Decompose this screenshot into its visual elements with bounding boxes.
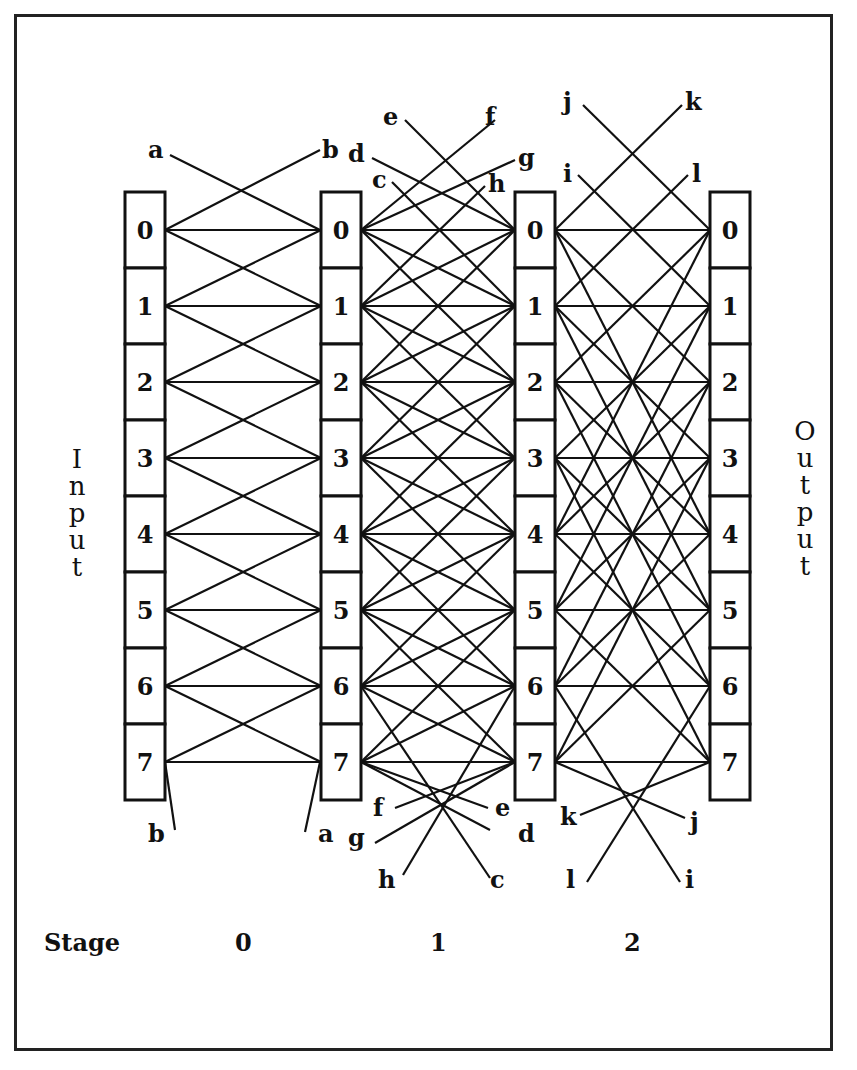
wrap-label-g: g xyxy=(348,823,365,852)
column-3-cell-label: 1 xyxy=(722,292,739,321)
wrap-label-h: h xyxy=(488,169,505,198)
column-2-cell-label: 0 xyxy=(527,216,544,245)
column-1-cell-label: 4 xyxy=(333,520,350,549)
wrap-label-e: e xyxy=(383,102,398,131)
wrap-line-k xyxy=(555,105,682,230)
stage-0-label: 0 xyxy=(235,928,252,957)
column-1-cell-label: 3 xyxy=(333,444,350,473)
column-3-cell-label: 0 xyxy=(722,216,739,245)
column-1-cell-label: 6 xyxy=(333,672,350,701)
column-2-cell-label: 6 xyxy=(527,672,544,701)
column-3-cell-label: 7 xyxy=(722,748,739,777)
wrap-line-c xyxy=(361,686,490,878)
wrap-line-j xyxy=(583,105,710,230)
column-0-cell-label: 3 xyxy=(137,444,154,473)
column-2-cell-label: 3 xyxy=(527,444,544,473)
output-label: Output xyxy=(790,418,820,580)
column-1-cell-label: 0 xyxy=(333,216,350,245)
wrap-label-f: f xyxy=(373,793,385,822)
column-0-cell-label: 2 xyxy=(137,368,154,397)
wrap-label-c: c xyxy=(490,865,505,894)
wrap-label-a: a xyxy=(318,819,334,848)
column-1-cell-label: 5 xyxy=(333,596,350,625)
stage-title: Stage xyxy=(44,928,120,957)
wrap-label-l: l xyxy=(692,159,701,188)
wrap-label-a: a xyxy=(148,135,164,164)
wrap-label-g: g xyxy=(518,143,535,172)
wrap-label-e: e xyxy=(495,793,510,822)
column-1-cell-label: 2 xyxy=(333,368,350,397)
column-3-cell-label: 2 xyxy=(722,368,739,397)
column-2-cell-label: 7 xyxy=(527,748,544,777)
stage-1-label: 1 xyxy=(430,928,447,957)
stage-2-label: 2 xyxy=(624,928,641,957)
column-2-cell-label: 5 xyxy=(527,596,544,625)
column-1-cell-label: 1 xyxy=(333,292,350,321)
wrap-line-a xyxy=(170,155,320,230)
column-0-cell-label: 1 xyxy=(137,292,154,321)
wrap-line-h xyxy=(361,186,485,306)
wrap-label-c: c xyxy=(372,165,387,194)
wrap-label-i: i xyxy=(563,159,572,188)
wrap-line-l xyxy=(555,175,688,306)
column-2-cell-label: 4 xyxy=(527,520,544,549)
column-3-cell-label: 4 xyxy=(722,520,739,549)
wrap-label-d: d xyxy=(348,139,365,168)
wrap-label-j: j xyxy=(688,807,699,836)
column-0-cell-label: 5 xyxy=(137,596,154,625)
wrap-label-k: k xyxy=(560,802,578,831)
column-2-cell-label: 2 xyxy=(527,368,544,397)
column-0-cell-label: 4 xyxy=(137,520,154,549)
wrap-label-i: i xyxy=(685,865,694,894)
column-3-cell-label: 3 xyxy=(722,444,739,473)
column-3-cell-label: 6 xyxy=(722,672,739,701)
wrap-label-d: d xyxy=(518,819,535,848)
wrap-label-j: j xyxy=(561,87,572,116)
column-0-cell-label: 0 xyxy=(137,216,154,245)
interconnection-network-diagram: babafegdhcdgchefkjlijkil0123456701234567… xyxy=(0,0,857,1070)
column-3-cell-label: 5 xyxy=(722,596,739,625)
wrap-label-l: l xyxy=(566,865,575,894)
wrap-line-c xyxy=(392,182,515,306)
wrap-label-k: k xyxy=(685,87,703,116)
column-1-cell-label: 7 xyxy=(333,748,350,777)
wrap-label-b: b xyxy=(322,135,339,164)
wrap-label-f: f xyxy=(485,102,497,131)
wrap-label-b: b xyxy=(148,819,165,848)
column-2-cell-label: 1 xyxy=(527,292,544,321)
column-0-cell-label: 7 xyxy=(137,748,154,777)
column-0-cell-label: 6 xyxy=(137,672,154,701)
wrap-line-i xyxy=(578,175,710,306)
wrap-label-h: h xyxy=(378,865,395,894)
input-label: Input xyxy=(62,446,92,581)
